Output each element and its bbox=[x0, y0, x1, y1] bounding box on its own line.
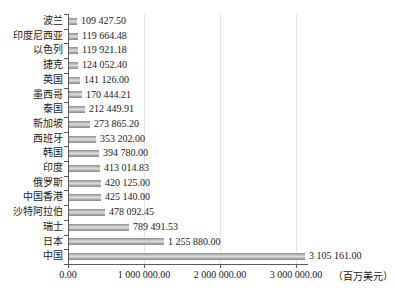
x-axis-tick bbox=[144, 264, 145, 268]
y-axis-tick bbox=[64, 190, 68, 191]
y-axis-tick bbox=[64, 176, 68, 177]
bar-value-label: 420 125.00 bbox=[105, 176, 150, 191]
bar bbox=[69, 165, 100, 172]
category-label: 韩国 bbox=[0, 146, 63, 161]
x-axis-tick bbox=[68, 264, 69, 268]
bar-value-label: 124 052.40 bbox=[82, 58, 127, 73]
bar-value-label: 119 664.48 bbox=[82, 29, 127, 44]
y-axis-tick bbox=[64, 14, 68, 15]
bar bbox=[69, 106, 85, 113]
category-label: 印度 bbox=[0, 161, 63, 176]
y-axis-tick bbox=[64, 88, 68, 89]
bar bbox=[69, 121, 90, 128]
bar bbox=[69, 33, 78, 40]
bar bbox=[69, 209, 105, 216]
category-label: 中国 bbox=[0, 249, 63, 264]
bar-chart: 波兰109 427.50印度尼西亚119 664.48以色列119 921.18… bbox=[0, 0, 395, 292]
bar-value-label: 425 140.00 bbox=[105, 190, 150, 205]
y-axis-tick bbox=[64, 205, 68, 206]
x-axis-tick bbox=[296, 264, 297, 268]
category-label: 泰国 bbox=[0, 102, 63, 117]
bar-value-label: 119 921.18 bbox=[82, 43, 127, 58]
category-label: 英国 bbox=[0, 73, 63, 88]
bar-value-label: 353 202.00 bbox=[100, 132, 145, 147]
category-label: 俄罗斯 bbox=[0, 176, 63, 191]
category-label: 印度尼西亚 bbox=[0, 29, 63, 44]
bar-value-label: 789 491.53 bbox=[133, 220, 178, 235]
x-axis-line bbox=[68, 264, 308, 265]
y-axis-tick bbox=[64, 58, 68, 59]
category-label: 中国香港 bbox=[0, 190, 63, 205]
bar bbox=[69, 238, 164, 245]
category-label: 西班牙 bbox=[0, 132, 63, 147]
bar-value-label: 141 126.00 bbox=[84, 73, 129, 88]
bar-value-label: 3 105 161.00 bbox=[309, 249, 362, 264]
bar bbox=[69, 77, 80, 84]
y-axis-tick bbox=[64, 132, 68, 133]
bar-value-label: 394 780.00 bbox=[103, 146, 148, 161]
x-axis-tick bbox=[220, 264, 221, 268]
bar bbox=[69, 224, 129, 231]
y-axis-tick bbox=[64, 102, 68, 103]
y-axis-tick bbox=[64, 146, 68, 147]
bar bbox=[69, 47, 78, 54]
bar-value-label: 413 014.83 bbox=[104, 161, 149, 176]
category-label: 墨西哥 bbox=[0, 88, 63, 103]
y-axis-tick bbox=[64, 161, 68, 162]
bar-value-label: 273 865.20 bbox=[94, 117, 139, 132]
category-label: 瑞士 bbox=[0, 220, 63, 235]
category-label: 日本 bbox=[0, 235, 63, 250]
bar bbox=[69, 136, 96, 143]
bar-value-label: 170 444.21 bbox=[86, 88, 131, 103]
y-axis-tick bbox=[64, 29, 68, 30]
plot-area: 波兰109 427.50印度尼西亚119 664.48以色列119 921.18… bbox=[0, 0, 395, 292]
gridline bbox=[220, 14, 221, 264]
bar bbox=[69, 253, 305, 260]
bar bbox=[69, 62, 78, 69]
y-axis-line bbox=[68, 14, 69, 265]
y-axis-tick bbox=[64, 73, 68, 74]
bar bbox=[69, 18, 77, 25]
bar-value-label: 109 427.50 bbox=[81, 14, 126, 29]
y-axis-tick bbox=[64, 117, 68, 118]
y-axis-tick bbox=[64, 220, 68, 221]
x-tick-label: 0.00 bbox=[59, 269, 77, 280]
bar-value-label: 212 449.91 bbox=[89, 102, 134, 117]
bar bbox=[69, 150, 99, 157]
category-label: 捷克 bbox=[0, 58, 63, 73]
bar bbox=[69, 91, 82, 98]
bar-value-label: 1 255 880.00 bbox=[168, 235, 221, 250]
bar-value-label: 478 092.45 bbox=[109, 205, 154, 220]
bar bbox=[69, 180, 101, 187]
y-axis-tick bbox=[64, 235, 68, 236]
category-label: 波兰 bbox=[0, 14, 63, 29]
x-tick-label: 1 000 000.00 bbox=[118, 269, 171, 280]
category-label: 以色列 bbox=[0, 43, 63, 58]
gridline bbox=[296, 14, 297, 264]
y-axis-tick bbox=[64, 249, 68, 250]
bar bbox=[69, 194, 101, 201]
x-axis-unit-label: （百万美元） bbox=[333, 268, 393, 283]
x-tick-label: 2 000 000.00 bbox=[194, 269, 247, 280]
y-axis-tick bbox=[64, 43, 68, 44]
category-label: 新加坡 bbox=[0, 117, 63, 132]
category-label: 沙特阿拉伯 bbox=[0, 205, 63, 220]
x-tick-label: 3 000 000.00 bbox=[270, 269, 323, 280]
